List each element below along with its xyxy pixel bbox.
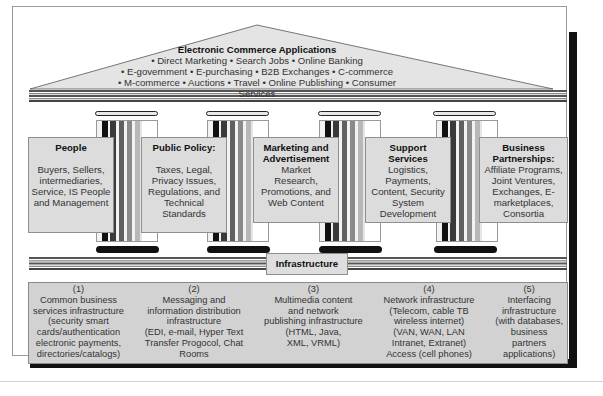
infrastructure-column-1: (1) Common business services infrastruct… — [33, 284, 124, 363]
page-rule — [0, 381, 603, 382]
roof-line: • Direct Marketing • Search Jobs • Onlin… — [100, 55, 414, 66]
roof-text: Electronic Commerce Applications • Direc… — [100, 44, 414, 99]
pillar-title: People — [29, 142, 113, 153]
infra-line: Interfacing — [495, 295, 563, 306]
pillar-body-line: System — [366, 197, 450, 208]
infrastructure-column-5: (5) Interfacing infrastructure (with dat… — [495, 284, 563, 363]
infra-line: Access (cell phones) — [384, 349, 475, 360]
infra-line: applications) — [495, 349, 563, 360]
pillar-body-line: Service, IS People — [29, 186, 113, 197]
infra-line: cards/authentication — [33, 327, 124, 338]
pillar-body-line: Exchanges, E- — [480, 186, 567, 197]
infra-line: Common business — [33, 295, 124, 306]
infra-line: Intranet, Extranet) — [384, 338, 475, 349]
infra-line: (security smart — [33, 316, 124, 327]
pillar-card-public-policy: Public Policy: Taxes, Legal, Privacy Iss… — [141, 137, 227, 233]
infra-line: (5) — [495, 284, 563, 295]
pillar-title: Business — [480, 142, 567, 153]
infra-line: partners — [495, 338, 563, 349]
pillar-cap — [318, 111, 381, 116]
infra-line: publishing infrastructure — [264, 316, 363, 327]
pillar-body-line: Content, Security — [366, 186, 450, 197]
infrastructure-column-4: (4) Network infrastructure (Telecom, cab… — [384, 284, 475, 363]
pillar-base — [319, 246, 382, 253]
infra-line: Multimedia content — [264, 295, 363, 306]
infra-line: (2) — [145, 284, 244, 295]
infrastructure-label: Infrastructure — [266, 253, 348, 275]
pillar-title: Advertisement — [254, 153, 338, 164]
pillar-body-line: Consortia — [480, 208, 567, 219]
infrastructure-column-3: (3) Multimedia content and network publi… — [264, 284, 363, 363]
pillar-body-line: Buyers, Sellers, — [29, 164, 113, 175]
infra-line: business — [495, 327, 563, 338]
pillar-body-line: Payments, — [366, 175, 450, 186]
pillar-title: Marketing and — [254, 142, 338, 153]
pillar-body-line: Promotions, and — [254, 186, 338, 197]
pillar-body-line: Research, — [254, 175, 338, 186]
infra-line: Rooms — [145, 349, 244, 360]
infra-line: (3) — [264, 284, 363, 295]
pillar-base — [207, 246, 270, 253]
infra-line: (Telecom, cable TB — [384, 306, 475, 317]
infra-line: (VAN, WAN, LAN — [384, 327, 475, 338]
infra-line: (HTML, Java, — [264, 327, 363, 338]
pillar-card-support-services: Support Services Logistics, Payments, Co… — [365, 137, 451, 223]
pillar-body-line: Taxes, Legal, — [142, 164, 226, 175]
infra-line: infrastructure — [145, 316, 244, 327]
infra-line: Messaging and — [145, 295, 244, 306]
pillar-body-line: Web Content — [254, 197, 338, 208]
pillar-title: Support — [366, 142, 450, 153]
roof-line: • E-government • E-purchasing • B2B Exch… — [100, 66, 414, 77]
infrastructure-column-2: (2) Messaging and information distributi… — [145, 284, 244, 363]
pillar-body-line: Privacy Issues, — [142, 175, 226, 186]
infrastructure-box: (1) Common business services infrastruct… — [28, 282, 568, 364]
pillar-card-business-partnerships: Business Partnerships: Affiliate Program… — [479, 137, 568, 223]
pillar-cap — [95, 111, 158, 116]
pillar-card-people: People Buyers, Sellers, intermediaries, … — [28, 137, 114, 233]
infra-line: Transfer Progocol, Chat — [145, 338, 244, 349]
infra-line: (1) — [33, 284, 124, 295]
pillar-body-line: and Management — [29, 197, 113, 208]
infra-line: infrastructure — [495, 306, 563, 317]
infra-line: services infrastructure — [33, 306, 124, 317]
pillar-body-line: Logistics, — [366, 164, 450, 175]
pillar-body-line: intermediaries, — [29, 175, 113, 186]
pillar-body-line: Joint Ventures, — [480, 175, 567, 186]
roof-line: • M-commerce • Auctions • Travel • Onlin… — [100, 77, 414, 99]
infra-line: (4) — [384, 284, 475, 295]
pillar-body-line: Technical — [142, 197, 226, 208]
pillar-body-line: Affiliate Programs, — [480, 164, 567, 175]
pillar-body-line: Standards — [142, 208, 226, 219]
infra-line: XML, VRML) — [264, 338, 363, 349]
infra-line: directories/catalogs) — [33, 349, 124, 360]
infra-line: electronic payments, — [33, 338, 124, 349]
pillar-title: Partnerships: — [480, 153, 567, 164]
pillar-title: Services — [366, 153, 450, 164]
pillar-body-line: Regulations, and — [142, 186, 226, 197]
infra-line: (with databases, — [495, 316, 563, 327]
infra-line: wireless internet) — [384, 316, 475, 327]
pillar-body-line: Market — [254, 164, 338, 175]
pillar-base — [96, 246, 159, 253]
pillar-cap — [206, 111, 269, 116]
pillar-card-marketing: Marketing and Advertisement Market Resea… — [253, 137, 339, 223]
pillar-title: Public Policy: — [142, 142, 226, 153]
infra-line: information distribution — [145, 306, 244, 317]
pillar-base — [434, 246, 497, 253]
roof-title: Electronic Commerce Applications — [100, 44, 414, 55]
infra-line: Network infrastructure — [384, 295, 475, 306]
infra-line: and network — [264, 306, 363, 317]
pillar-cap — [433, 111, 496, 116]
infra-line: (EDI, e-mail, Hyper Text — [145, 327, 244, 338]
pillar-body-line: marketplaces, — [480, 197, 567, 208]
pillar-body-line: Development — [366, 208, 450, 219]
